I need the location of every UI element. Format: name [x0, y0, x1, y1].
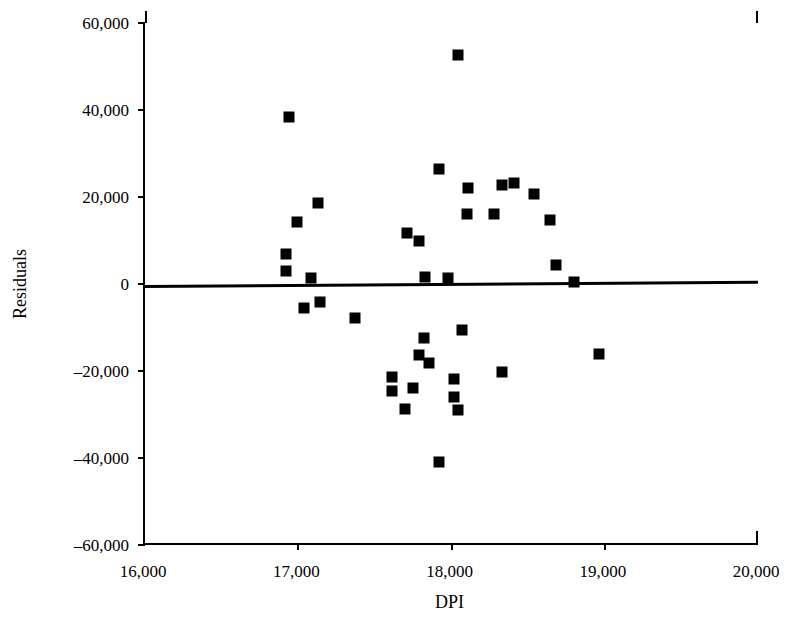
data-point [545, 215, 556, 226]
data-point-layer [145, 23, 756, 543]
data-point [305, 272, 316, 283]
data-point [418, 332, 429, 343]
data-point [434, 456, 445, 467]
y-tick-label: 0 [121, 276, 130, 293]
x-tick-label: 20,000 [733, 563, 780, 580]
y-tick-mark [138, 544, 145, 546]
x-tick-mark [297, 543, 299, 550]
y-tick-mark [138, 457, 145, 459]
y-axis-title: Residuals [11, 249, 29, 319]
data-point [280, 265, 291, 276]
x-tick-label: 16,000 [120, 563, 167, 580]
residuals-scatter-chart: Residuals DPI 60,00040,00020,0000–20,000… [0, 0, 797, 626]
data-point [408, 382, 419, 393]
data-point [448, 374, 459, 385]
data-point [452, 49, 463, 60]
data-point [448, 392, 459, 403]
y-tick-mark [138, 370, 145, 372]
data-point [299, 302, 310, 313]
data-point [529, 188, 540, 199]
plot-area [143, 23, 756, 545]
y-tick-label: –40,000 [74, 450, 129, 467]
data-point [497, 367, 508, 378]
x-axis-right-cap [756, 531, 758, 545]
data-point [550, 259, 561, 270]
x-axis-end-cap [145, 11, 147, 23]
x-tick-label: 17,000 [273, 563, 320, 580]
data-point [414, 235, 425, 246]
data-point [399, 404, 410, 415]
x-tick-label: 19,000 [579, 563, 626, 580]
x-tick-label: 18,000 [426, 563, 473, 580]
y-tick-label: 20,000 [82, 189, 129, 206]
data-point [463, 182, 474, 193]
data-point [434, 164, 445, 175]
y-tick-mark [138, 109, 145, 111]
x-tick-mark [451, 543, 453, 550]
data-point [569, 277, 580, 288]
data-point [497, 179, 508, 190]
x-tick-mark [604, 543, 606, 550]
y-tick-label: 60,000 [82, 15, 129, 32]
y-tick-mark [138, 22, 145, 24]
data-point [489, 208, 500, 219]
y-tick-mark [138, 283, 145, 285]
data-point [349, 312, 360, 323]
x-axis-end-cap [756, 11, 758, 23]
y-tick-label: –20,000 [74, 363, 129, 380]
data-point [402, 228, 413, 239]
x-axis-title: DPI [435, 593, 464, 611]
data-point [292, 216, 303, 227]
data-point [452, 405, 463, 416]
data-point [280, 248, 291, 259]
y-tick-label: –60,000 [74, 537, 129, 554]
y-tick-label: 40,000 [82, 102, 129, 119]
data-point [420, 272, 431, 283]
data-point [457, 325, 468, 336]
data-point [423, 357, 434, 368]
data-point [461, 208, 472, 219]
data-point [314, 296, 325, 307]
data-point [443, 272, 454, 283]
y-tick-mark [138, 196, 145, 198]
data-point [509, 178, 520, 189]
data-point [386, 372, 397, 383]
data-point [593, 349, 604, 360]
data-point [387, 386, 398, 397]
data-point [313, 198, 324, 209]
data-point [284, 111, 295, 122]
